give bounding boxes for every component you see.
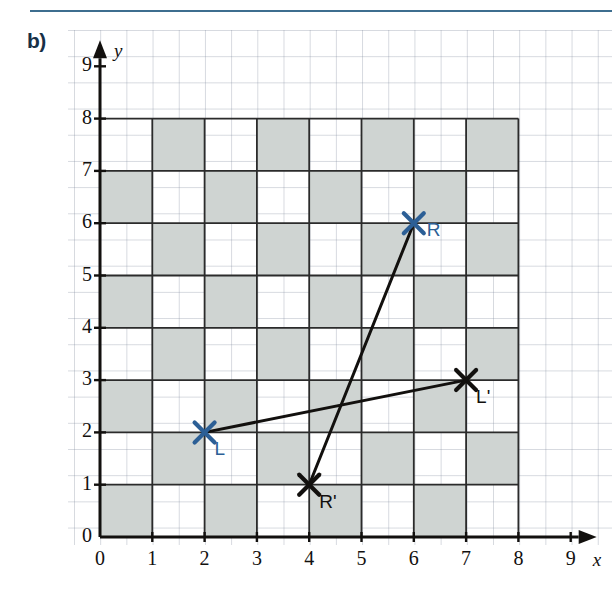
x-axis-label: x bbox=[593, 549, 601, 571]
x-tick-label: 2 bbox=[192, 547, 218, 570]
point-label-rprime: R' bbox=[319, 491, 336, 513]
x-tick-label: 1 bbox=[139, 547, 165, 570]
y-tick-label: 8 bbox=[68, 106, 92, 129]
y-tick-label: 9 bbox=[68, 53, 92, 76]
x-tick-label: 3 bbox=[244, 547, 270, 570]
grid-cell bbox=[205, 276, 257, 328]
y-tick-label: 7 bbox=[68, 158, 92, 181]
grid-cell bbox=[257, 119, 309, 171]
grid-cell bbox=[414, 485, 466, 537]
grid-cell bbox=[362, 119, 414, 171]
segments bbox=[205, 223, 467, 485]
grid-cell bbox=[100, 485, 152, 537]
grid-cell bbox=[466, 119, 518, 171]
x-tick-label: 6 bbox=[401, 547, 427, 570]
part-label: b) bbox=[27, 29, 46, 53]
y-tick-label: 3 bbox=[68, 367, 92, 390]
grid-cell bbox=[152, 223, 204, 275]
grid-cell bbox=[100, 171, 152, 223]
grid-cell bbox=[466, 223, 518, 275]
point-label-r: R bbox=[427, 219, 441, 241]
grid-cell bbox=[257, 328, 309, 380]
grid-cell bbox=[100, 276, 152, 328]
y-axis-label: y bbox=[114, 40, 122, 62]
y-tick-label: 0 bbox=[68, 524, 92, 547]
x-tick-label: 4 bbox=[296, 547, 322, 570]
y-tick-label: 6 bbox=[68, 210, 92, 233]
grid-cell bbox=[309, 171, 361, 223]
grid-cell bbox=[152, 119, 204, 171]
grid-cell bbox=[414, 276, 466, 328]
x-tick-label: 9 bbox=[558, 547, 584, 570]
x-tick-label: 5 bbox=[349, 547, 375, 570]
grid-cell bbox=[152, 328, 204, 380]
grid-cell bbox=[257, 223, 309, 275]
y-tick-label: 4 bbox=[68, 315, 92, 338]
x-tick-label: 0 bbox=[87, 547, 113, 570]
x-axis-arrow bbox=[579, 530, 597, 544]
y-tick-label: 5 bbox=[68, 263, 92, 286]
header-rule bbox=[30, 10, 612, 12]
y-tick-label: 2 bbox=[68, 419, 92, 442]
grid-cell bbox=[362, 432, 414, 484]
plot-canvas bbox=[68, 30, 612, 575]
point-label-l: L bbox=[215, 438, 226, 460]
coordinate-plot-figure: 0123456789 0123456789 LRR'L' x y bbox=[68, 30, 612, 575]
x-tick-label: 7 bbox=[453, 547, 479, 570]
x-tick-label: 8 bbox=[505, 547, 531, 570]
y-tick-label: 1 bbox=[68, 472, 92, 495]
point-label-lprime: L' bbox=[476, 386, 490, 408]
grid-cell bbox=[309, 276, 361, 328]
grid-cell bbox=[466, 432, 518, 484]
grid-cell bbox=[205, 485, 257, 537]
point-markers bbox=[195, 213, 477, 495]
y-axis-arrow bbox=[93, 40, 107, 58]
grid-cell bbox=[205, 171, 257, 223]
grid-cell bbox=[100, 380, 152, 432]
